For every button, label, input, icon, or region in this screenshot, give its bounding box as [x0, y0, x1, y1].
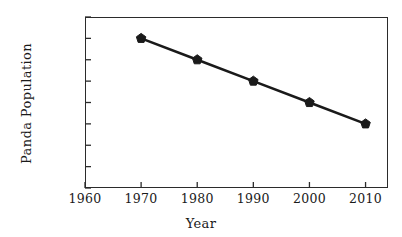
x-axis-title: Year [0, 216, 402, 231]
data-marker-group [136, 33, 370, 128]
tick-marks [85, 17, 366, 188]
data-point-marker [361, 119, 371, 128]
data-point-marker [249, 76, 259, 85]
data-point-marker [305, 98, 315, 107]
chart-graphics-layer [0, 0, 402, 237]
data-point-marker [192, 55, 202, 64]
chart-figure: Panda Population 00001000200030004000500… [0, 0, 402, 237]
data-point-marker [136, 33, 146, 42]
